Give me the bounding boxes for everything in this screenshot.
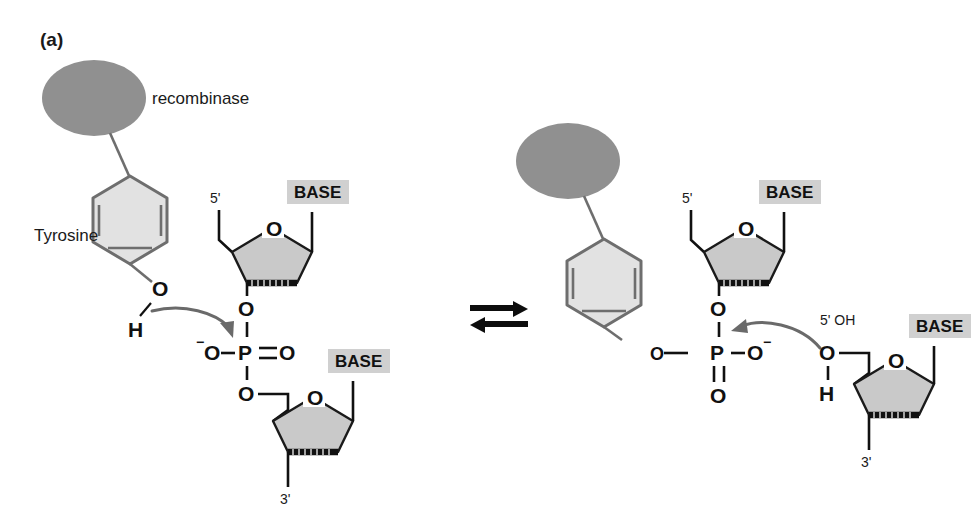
ring-to-oxygen-bond-right [604,327,622,340]
panel-label: (a) [40,29,63,50]
mechanism-arrow-right [731,319,820,348]
equilibrium-arrow [470,301,528,333]
left-structure: recombinase Tyrosine O H 5' [34,60,390,507]
phosphate-group-left: O P − O O O [196,297,295,405]
phosphate-oxygen-right-anion: O [747,341,763,364]
three-prime-label-left: 3' [280,491,290,507]
tyrosine-ring-left [93,176,167,264]
tyrosine-hydroxyl-hydrogen-left: H [128,318,143,341]
tyrosine-ring-right [567,239,641,327]
lower-sugar-left: O BASE 3' [258,349,390,507]
five-prime-oh-label-right: 5' OH [820,312,855,328]
base-label-left-upper: BASE [294,183,341,202]
protein-ring-linker-left [110,133,130,178]
sugar-front-hatching-left-upper [252,280,288,286]
bridging-oxygen-top-right: O [710,297,726,320]
figure-panel-a: (a) recombinase Tyrosine O H [0,0,974,518]
lower-sugar-right: 5' OH O H O BASE 3' [819,312,971,470]
recombinase-blob-left [42,60,146,136]
free-hydroxyl-oxygen-right: O [819,341,835,364]
five-prime-bond-left-upper [219,210,232,252]
five-prime-label-right-upper: 5' [682,190,692,206]
upper-sugar-left: 5' O BASE [210,180,349,296]
base-label-right-upper: BASE [766,183,813,202]
phosphotyrosine-ester-oxygen-right: O [650,344,664,364]
five-prime-bond-right-upper [691,210,704,252]
phosphate-oxygen-bottom-right: O [710,384,726,407]
sugar-front-hatching-left-lower [293,449,329,455]
five-prime-label-left-upper: 5' [210,190,220,206]
mechanism-arrow-left [152,308,234,338]
phosphate-oxygen-right: O [279,341,295,364]
ring-oxygen-left-upper: O [266,217,282,240]
right-structure: O 5' O BASE [516,123,971,470]
negative-charge-right-phosphate: − [763,334,771,350]
bridging-oxygen-bottom-left: O [238,382,254,405]
base-label-left-lower: BASE [335,352,382,371]
ring-oxygen-right-upper: O [738,217,754,240]
bridging-oxygen-top-left: O [238,297,254,320]
upper-sugar-right: 5' O BASE [682,180,821,296]
oxygen-hydrogen-bond-left [140,303,151,316]
phosphorus-atom-left: P [238,341,252,364]
protein-ring-linker-right [584,196,604,241]
sugar-front-hatching-right-lower [874,412,910,418]
phosphate-group-right: O P O − O [710,297,771,407]
negative-charge-left-phosphate: − [196,334,204,350]
three-prime-label-right: 3' [861,454,871,470]
free-hydroxyl-hydrogen-right: H [819,382,834,405]
ring-oxygen-right-lower: O [888,349,904,372]
recombinase-mechanism-diagram: (a) recombinase Tyrosine O H [0,0,974,518]
ring-oxygen-left-lower: O [307,386,323,409]
sugar-front-hatching-right-upper [724,280,760,286]
base-label-right-lower: BASE [916,317,963,336]
tyrosine-hydroxyl-oxygen-left: O [152,277,168,300]
phosphate-oxygen-left: O [204,341,220,364]
recombinase-blob-right [516,123,620,199]
tyrosine-label-left: Tyrosine [34,226,98,245]
ring-to-oxygen-bond-left [130,264,152,282]
recombinase-label-left: recombinase [152,89,249,108]
phosphorus-atom-right: P [710,341,724,364]
